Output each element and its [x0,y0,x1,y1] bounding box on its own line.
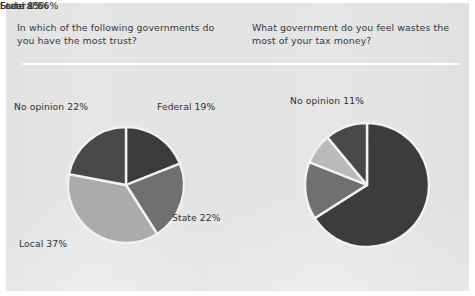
pie-chart-waste [243,78,469,288]
slice-label-trust-no-opinion: No opinion 22% [14,101,88,112]
slice-label-trust-local: Local 37% [19,238,67,249]
header-divider [22,63,460,65]
slice-label-waste-federal: Federal 66% [0,0,58,11]
pie-slices-waste [305,123,429,247]
pie-chart-figure: In which of the following governments do… [0,0,475,296]
slice-label-trust-federal: Federal 19% [157,101,215,112]
slice-label-trust-state: State 22% [172,212,221,223]
slice-label-waste-no-opinion: No opinion 11% [290,95,364,106]
pie-chart-waste-svg [243,78,469,288]
pie-slices-trust [68,127,184,243]
question-left-text: In which of the following governments do… [17,21,227,48]
question-right-text: What government do you feel wastes the m… [252,21,462,48]
pie-slice-no-opinion [69,127,126,185]
